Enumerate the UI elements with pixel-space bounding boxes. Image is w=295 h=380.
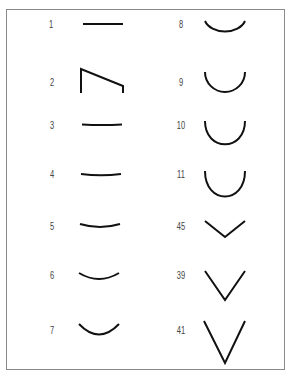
shape-7-curve — [79, 324, 119, 335]
shape-41-v — [204, 321, 245, 363]
shape-6-curve — [79, 273, 119, 279]
shape-45-v — [205, 221, 245, 237]
shape-3-curve — [82, 125, 122, 126]
shape-8-arc — [205, 21, 245, 31]
shape-10-u — [205, 121, 245, 144]
shape-11-u — [205, 171, 245, 197]
shape-39-v — [205, 271, 245, 300]
shape-2-bracket — [81, 69, 123, 93]
shape-4-curve — [81, 174, 121, 175]
shapes-canvas — [0, 0, 295, 380]
shape-9-arc — [205, 72, 245, 92]
shape-5-curve — [80, 224, 120, 227]
